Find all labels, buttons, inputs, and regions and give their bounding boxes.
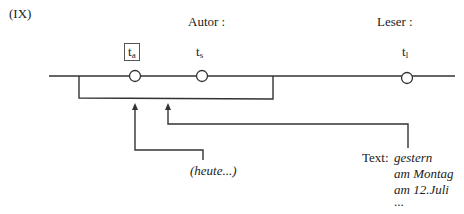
figure-label: (IX) bbox=[9, 6, 31, 22]
reader-header: Leser : bbox=[377, 14, 413, 30]
text-item-1: gestern bbox=[394, 150, 432, 166]
point-ta-label: ta bbox=[124, 44, 140, 60]
text-arrow-head bbox=[165, 103, 171, 110]
text-arrow bbox=[168, 108, 408, 148]
point-ts-marker bbox=[197, 71, 208, 82]
text-item-2: am Montag bbox=[394, 166, 454, 182]
author-header: Autor : bbox=[188, 14, 225, 30]
heute-arrow bbox=[135, 108, 203, 160]
point-ta-marker bbox=[130, 71, 141, 82]
heute-arrow-head bbox=[132, 103, 138, 110]
author-interval-bracket bbox=[79, 76, 273, 99]
point-tl-marker bbox=[402, 73, 413, 84]
heute-annotation: (heute...) bbox=[190, 163, 237, 179]
text-label: Text: bbox=[362, 150, 389, 166]
text-item-ellipsis: ... bbox=[394, 194, 404, 210]
point-ts-label: ts bbox=[196, 44, 203, 60]
point-tl-label: tl bbox=[402, 44, 408, 60]
